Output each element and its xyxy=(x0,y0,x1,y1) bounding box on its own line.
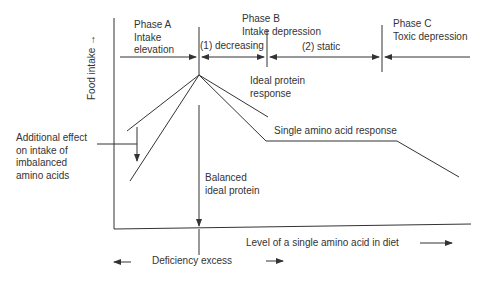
balanced-label-line2: ideal protein xyxy=(205,185,259,198)
additional-effect-line3: imbalanced xyxy=(16,157,87,170)
balanced-label-line1: Balanced xyxy=(205,172,259,185)
phase-a-name: Phase A xyxy=(134,19,174,32)
y-axis-label: Food intake → xyxy=(86,35,97,100)
phase-a-desc-1: Intake xyxy=(134,32,174,45)
balanced-ideal-protein-label: Balanced ideal protein xyxy=(205,172,259,197)
single-amino-acid-response-label: Single amino acid response xyxy=(274,125,397,138)
additional-effect-line1: Additional effect xyxy=(16,132,87,145)
additional-effect-label: Additional effect on intake of imbalance… xyxy=(16,132,87,182)
deficiency-excess-label: Deficiency excess xyxy=(152,255,232,268)
imbalanced-left-lower xyxy=(130,75,199,181)
x-axis xyxy=(114,224,471,229)
sub-phase-static: (2) static xyxy=(302,41,340,54)
x-axis-label: Level of a single amino acid in diet xyxy=(246,237,399,250)
phase-b-desc: Intake depression xyxy=(242,26,321,39)
additional-effect-line2: on intake of xyxy=(16,145,87,158)
phase-b-name: Phase B xyxy=(242,13,321,26)
ideal-protein-label-line2: response xyxy=(250,88,305,101)
phase-c-desc: Toxic depression xyxy=(393,31,467,44)
phase-c-name: Phase C xyxy=(393,18,467,31)
sub-phase-decreasing: (1) decreasing xyxy=(200,40,264,53)
phase-a-label: Phase A Intake elevation xyxy=(134,19,174,57)
ideal-protein-label-line1: Ideal protein xyxy=(250,75,305,88)
phase-b-label: Phase B Intake depression xyxy=(242,13,321,38)
phase-c-label: Phase C Toxic depression xyxy=(393,18,467,43)
ideal-protein-left-upper xyxy=(127,75,199,131)
additional-effect-line4: amino acids xyxy=(16,170,87,183)
phase-a-desc-2: elevation xyxy=(134,44,174,57)
ideal-protein-response-label: Ideal protein response xyxy=(250,75,305,100)
